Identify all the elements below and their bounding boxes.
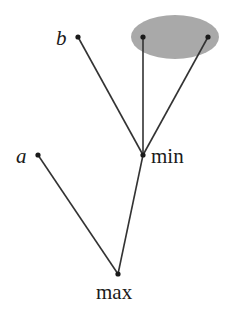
label-max: max [96, 280, 133, 304]
node-a [35, 152, 40, 157]
label-b: b [56, 26, 67, 50]
edge-max-min [118, 155, 143, 274]
node-min [140, 152, 145, 157]
edge-max-a [38, 155, 118, 274]
game-tree-diagram: b a min max [0, 0, 226, 316]
node-max [115, 271, 120, 276]
node-b [75, 34, 80, 39]
edge-min-b [78, 37, 143, 155]
node-c1 [140, 34, 145, 39]
label-a: a [16, 144, 27, 168]
node-c2 [205, 34, 210, 39]
label-min: min [151, 144, 184, 168]
